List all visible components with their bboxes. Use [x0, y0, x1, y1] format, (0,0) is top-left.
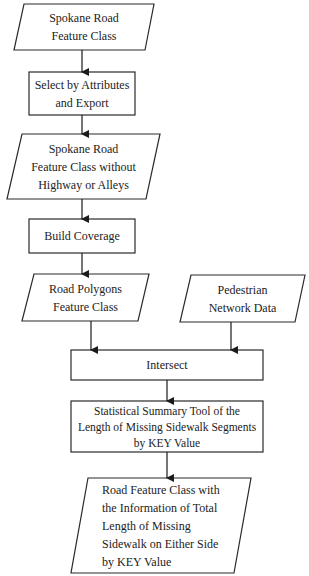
label-line: Spokane Road	[49, 140, 119, 158]
label-line: the Information of Total	[102, 499, 217, 517]
label-line: by KEY Value	[134, 435, 200, 451]
label-line: Sidewalk on Either Side	[102, 535, 218, 553]
label-select-by-attributes: Select by Attributes and Export	[29, 72, 135, 115]
label-line: Feature Class without	[31, 158, 136, 176]
label-build-coverage: Build Coverage	[29, 219, 135, 253]
label-line: Intersect	[146, 356, 187, 374]
label-spokane-road-feature-class: Spokane Road Feature Class	[19, 4, 149, 50]
label-line: Length of Missing	[102, 517, 191, 535]
label-line: Road Polygons	[49, 280, 122, 298]
label-line: Build Coverage	[44, 227, 120, 245]
label-spokane-road-without-highway: Spokane Road Feature Class without Highw…	[14, 134, 153, 199]
label-road-feature-class-result: Road Feature Class with the Information …	[102, 480, 242, 571]
label-statistical-summary: Statistical Summary Tool of the Length o…	[71, 401, 263, 452]
label-line: Pedestrian	[218, 281, 268, 299]
label-intersect: Intersect	[71, 350, 263, 380]
label-line: Spokane Road	[49, 9, 119, 27]
label-line: Highway or Alleys	[38, 176, 129, 194]
label-line: Road Feature Class with	[102, 481, 220, 499]
label-line: by KEY Value	[102, 553, 171, 571]
label-line: Feature Class	[52, 27, 117, 45]
label-road-polygons: Road Polygons Feature Class	[28, 274, 143, 321]
label-line: Length of Missing Sidewalk Segments	[78, 419, 256, 435]
label-pedestrian-network: Pedestrian Network Data	[185, 275, 300, 322]
label-line: Feature Class	[53, 298, 118, 316]
label-line: Select by Attributes	[35, 76, 130, 94]
label-line: Network Data	[209, 299, 277, 317]
label-line: Statistical Summary Tool of the	[94, 403, 240, 419]
label-line: and Export	[56, 94, 109, 112]
